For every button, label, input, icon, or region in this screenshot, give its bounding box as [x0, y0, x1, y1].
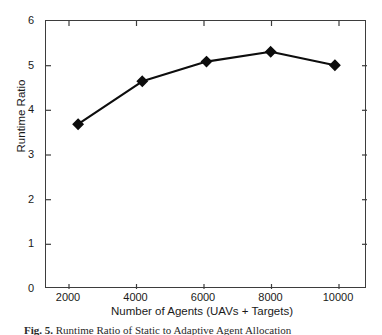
x-tick-label-6000: 6000	[191, 291, 215, 303]
y-axis-ticks	[46, 66, 367, 245]
x-axis-title: Number of Agents (UAVs + Targets)	[0, 305, 382, 318]
x-tick-label-4000: 4000	[123, 291, 147, 303]
y-tick-label-2: 2	[28, 193, 34, 204]
caption-label: Fig. 5.	[24, 324, 53, 335]
y-tick-label-4: 4	[28, 104, 34, 115]
y-tick-label-6: 6	[28, 15, 34, 26]
y-tick-label-3: 3	[28, 149, 34, 160]
data-point-8000	[266, 47, 276, 57]
data-point-markers	[73, 47, 339, 129]
y-axis-title: Runtime Ratio	[15, 51, 27, 181]
x-tick-label-8000: 8000	[258, 291, 282, 303]
line-chart-canvas	[46, 21, 367, 289]
plot-area	[45, 20, 366, 288]
x-tick-label-2000: 2000	[56, 291, 80, 303]
data-point-10000	[330, 60, 340, 70]
caption-text: Runtime Ratio of Static to Adaptive Agen…	[56, 324, 292, 335]
y-tick-label-1: 1	[28, 238, 34, 249]
figure-container: 0 1 2 3 4 5 6 Runtime Ratio	[0, 0, 382, 335]
x-tick-label-10000: 10000	[323, 291, 354, 303]
data-point-6000	[202, 57, 212, 67]
y-tick-label-5: 5	[28, 59, 34, 70]
figure-caption: Fig. 5. Runtime Ratio of Static to Adapt…	[0, 324, 382, 335]
